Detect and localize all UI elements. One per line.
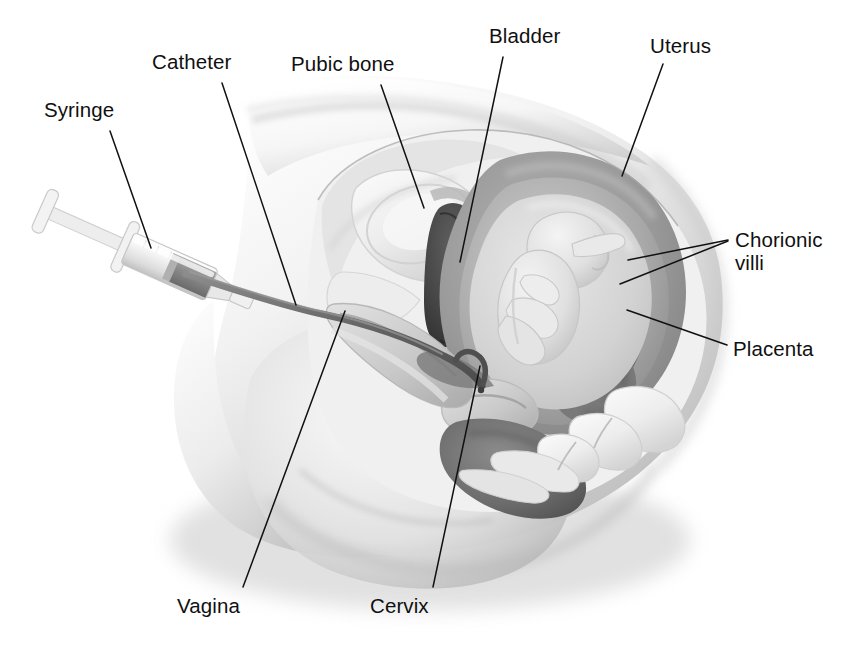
label-vagina: Vagina xyxy=(177,594,240,617)
illustration-canvas: Syringe Catheter Pubic bone Bladder Uter… xyxy=(0,0,860,646)
catheter-tip-marker xyxy=(478,387,484,393)
label-chorionic-villi: Chorionic villi xyxy=(735,228,823,274)
label-cervix: Cervix xyxy=(370,594,429,617)
label-bladder: Bladder xyxy=(489,24,560,47)
label-catheter: Catheter xyxy=(152,50,231,73)
label-placenta: Placenta xyxy=(733,337,814,360)
anatomical-illustration xyxy=(0,0,860,646)
label-uterus: Uterus xyxy=(650,34,711,57)
label-syringe: Syringe xyxy=(44,98,114,121)
label-pubic-bone: Pubic bone xyxy=(291,52,395,75)
